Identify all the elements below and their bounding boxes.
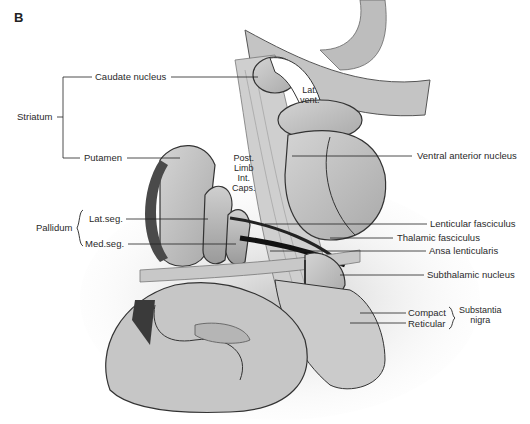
label-lenticular-fasciculus: Lenticular fasciculus	[430, 219, 516, 229]
label-caudate-nucleus: Caudate nucleus	[95, 72, 166, 82]
label-subthalamic-nucleus: Subthalamic nucleus	[427, 270, 515, 280]
basal-ganglia-illustration	[0, 0, 530, 424]
label-med-seg: Med.seg.	[85, 239, 124, 249]
label-lateral-ventricle: Lat. vent.	[300, 86, 320, 106]
label-substantia-nigra: Substantia nigra	[459, 306, 502, 326]
label-posterior-limb-internal-capsule: Post. Limb Int. Caps.	[232, 154, 256, 194]
label-ansa-lenticularis: Ansa lenticularis	[429, 246, 498, 256]
label-pallidum: Pallidum	[36, 223, 72, 233]
label-striatum: Striatum	[17, 112, 52, 122]
label-lat-seg: Lat.seg.	[89, 214, 123, 224]
fiber-bundle-upper	[320, 0, 386, 70]
label-compact: Compact	[408, 308, 446, 318]
label-putamen: Putamen	[84, 153, 122, 163]
pallidum-brace	[77, 210, 83, 246]
label-thalamic-fasciculus: Thalamic fasciculus	[397, 233, 480, 243]
label-reticular: Reticular	[408, 319, 446, 329]
label-ventral-anterior-nucleus: Ventral anterior nucleus	[417, 151, 517, 161]
